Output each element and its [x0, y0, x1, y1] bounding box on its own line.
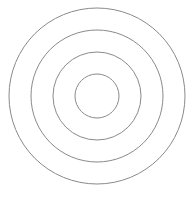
circle-ring-1 — [9, 8, 185, 184]
caption-text-clipped — [0, 193, 193, 200]
circle-ring-3 — [53, 52, 141, 140]
circle-ring-2 — [31, 30, 163, 162]
circle-ring-4 — [75, 74, 119, 118]
concentric-circles-diagram — [0, 0, 193, 200]
